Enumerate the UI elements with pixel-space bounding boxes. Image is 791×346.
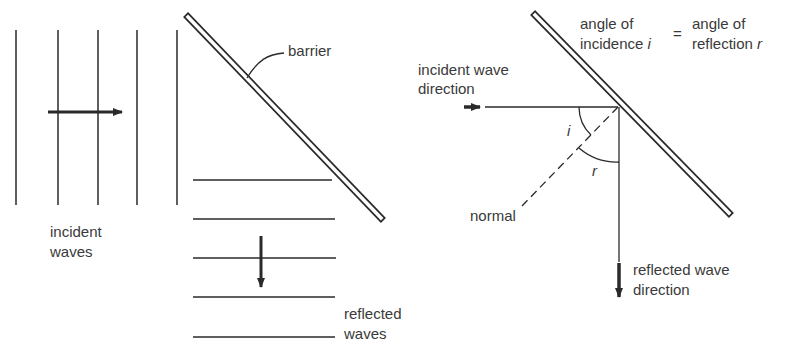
reflected-waves-label-line2: waves [344,324,387,343]
angle-r-label: r [592,161,597,180]
law-right-line1: angle of [692,14,745,33]
reflected-direction-label-line2: direction [633,280,690,299]
reflected-wavefronts [193,180,336,337]
incident-waves-label-line2: waves [50,242,93,261]
law-left-symbol: i [648,35,651,52]
barrier-leader-line [247,53,284,78]
law-right-text: reflection [692,35,753,52]
angle-i-arc [579,107,591,135]
barrier-left [188,17,381,218]
law-left-line2: incidence i [580,34,651,53]
reflected-direction-label-line1: reflected wave [633,260,730,279]
law-right-line2: reflection r [692,34,762,53]
law-right-symbol: r [757,35,762,52]
barrier-label: barrier [288,41,331,60]
law-left-line1: angle of [580,14,633,33]
law-equals-sign: = [673,24,682,43]
incident-waves-label-line1: incident [50,222,102,241]
angle-r-arc [579,148,619,162]
normal-label: normal [470,206,516,225]
angle-i-label: i [567,121,570,140]
reflected-waves-label-line1: reflected [344,304,402,323]
incident-wavefronts [16,30,177,205]
incident-direction-label-line1: incident wave [418,60,509,79]
incident-direction-label-line2: direction [418,79,475,98]
law-left-text: incidence [580,35,643,52]
